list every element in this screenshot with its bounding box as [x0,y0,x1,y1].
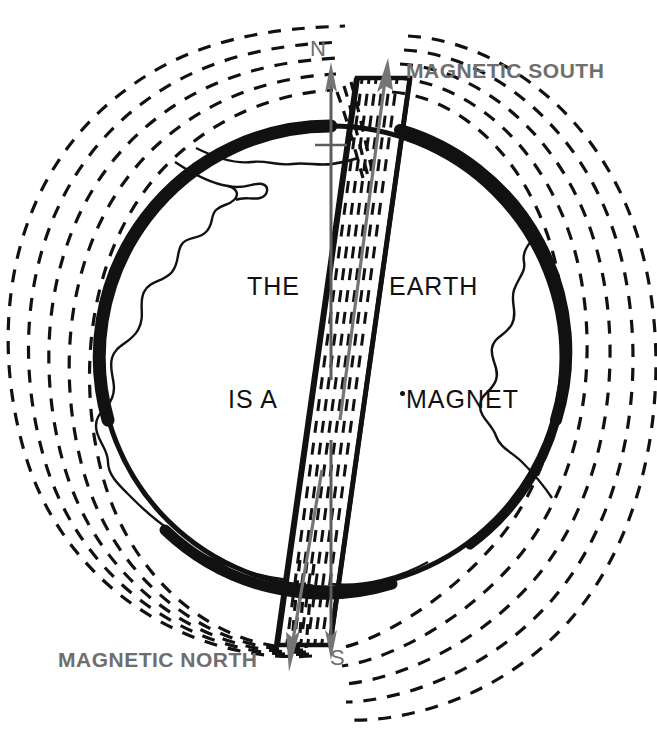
field-lines-right [340,36,656,720]
inner-text-is-a: IS A [228,385,278,414]
inner-text-magnet: MAGNET [406,385,519,414]
diagram-canvas [0,0,657,731]
earth-magnet-diagram: N S MAGNETIC SOUTH MAGNETIC NORTH THE EA… [0,0,657,731]
magnet-word-bullet [400,391,405,396]
magnetic-south-label: MAGNETIC SOUTH [406,59,604,83]
coastline-outline-left [96,162,267,530]
inner-text-earth: EARTH [389,272,478,301]
field-lines-left [8,26,345,657]
geographic-south-label: S [330,645,345,671]
geographic-north-label: N [310,36,326,62]
inner-text-the: THE [247,272,300,301]
magnetic-north-label: MAGNETIC NORTH [58,648,258,672]
